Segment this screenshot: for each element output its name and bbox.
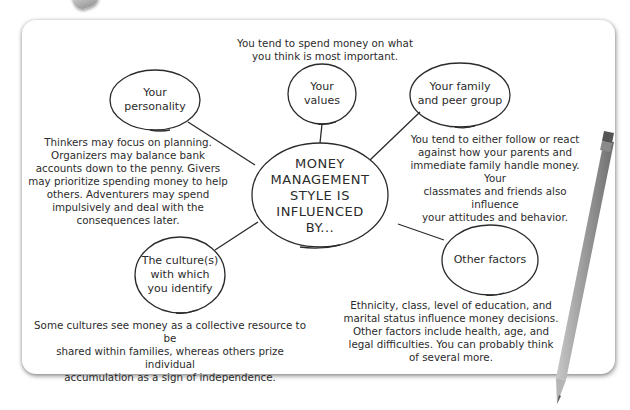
connector-other [398, 224, 444, 240]
center-line: INFLUENCED [252, 204, 388, 220]
label-line: Your [288, 80, 356, 94]
desc-line: classmates and friends also influence [400, 185, 590, 211]
desc-line: your attitudes and behavior. [400, 211, 590, 224]
desc-line: others. Adventurers may spend [28, 188, 228, 201]
desc-line: you think is most important. [225, 50, 425, 63]
label-line: values [288, 94, 356, 108]
desc-line: marital status influence money decisions… [340, 312, 562, 325]
label-line: Your family [410, 80, 510, 94]
label-line: with which [135, 268, 225, 282]
family-description: You tend to either follow or react again… [400, 133, 590, 224]
desc-line: You tend to either follow or react [400, 133, 590, 146]
desc-line: of several more. [340, 351, 562, 364]
desc-line: Organizers may balance bank [28, 149, 228, 162]
label-line: personality [110, 100, 200, 114]
label-line: Other factors [442, 253, 538, 267]
desc-line: You tend to spend money on what [225, 37, 425, 50]
center-line: MONEY [252, 156, 388, 172]
label-line: Your [110, 86, 200, 100]
desc-line: may prioritize spending money to help [28, 175, 228, 188]
family-label: Your family and peer group [410, 80, 510, 108]
desc-line: Ethnicity, class, level of education, an… [340, 299, 562, 312]
desc-line: consequences later. [28, 214, 228, 227]
label-line: The culture(s) [135, 254, 225, 268]
desc-line: shared within families, whereas others p… [30, 345, 310, 371]
center-line: MANAGEMENT [252, 172, 388, 188]
desc-line: impulsively and deal with the [28, 201, 228, 214]
personality-description: Thinkers may focus on planning. Organize… [28, 136, 228, 227]
values-label: Your values [288, 80, 356, 108]
connector-values [320, 124, 322, 143]
label-line: you identify [135, 282, 225, 296]
desc-line: against how your parents and [400, 146, 590, 159]
culture-description: Some cultures see money as a collective … [30, 319, 310, 384]
desc-line: accounts down to the penny. Givers [28, 162, 228, 175]
values-description: You tend to spend money on what you thin… [225, 37, 425, 63]
center-line: BY... [252, 220, 388, 236]
desc-line: legal difficulties. You can probably thi… [340, 338, 562, 351]
desc-line: Other factors include health, age, and [340, 325, 562, 338]
desc-line: accumulation as a sign of independence. [30, 371, 310, 384]
center-label: MONEY MANAGEMENT STYLE IS INFLUENCED BY.… [252, 156, 388, 236]
center-line: STYLE IS [252, 188, 388, 204]
desc-line: immediate family handle money. Your [400, 159, 590, 185]
label-line: and peer group [410, 94, 510, 108]
culture-label: The culture(s) with which you identify [135, 254, 225, 296]
other-label: Other factors [442, 253, 538, 267]
personality-label: Your personality [110, 86, 200, 114]
desc-line: Thinkers may focus on planning. [28, 136, 228, 149]
desc-line: Some cultures see money as a collective … [30, 319, 310, 345]
other-description: Ethnicity, class, level of education, an… [340, 299, 562, 364]
